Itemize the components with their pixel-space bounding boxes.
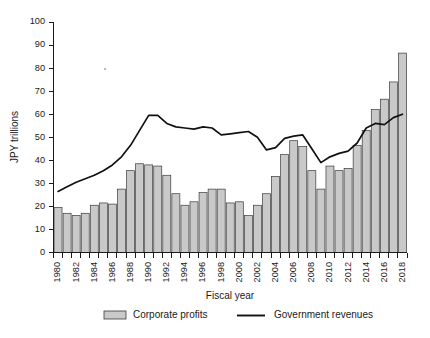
y-tick-label-40: 40	[35, 155, 45, 165]
bar-2004	[272, 176, 280, 252]
bar-1991	[154, 166, 162, 252]
x-tick-label-1982: 1982	[71, 262, 81, 282]
bar-2011	[335, 171, 343, 253]
bar-2000	[235, 202, 243, 253]
x-tick-label-2004: 2004	[270, 262, 280, 282]
bar-2007	[299, 146, 307, 252]
x-axis-title: Fiscal year	[206, 290, 255, 301]
legend-label-government-revenues: Government revenues	[274, 309, 373, 320]
y-axis-label: JPY trillions	[9, 111, 20, 163]
legend-swatch-corporate-profits	[104, 311, 126, 319]
x-tick-label-1990: 1990	[143, 262, 153, 282]
y-axis: 0102030405060708090100	[30, 16, 54, 257]
x-tick-label-1986: 1986	[107, 262, 117, 282]
bar-2017	[389, 82, 397, 253]
x-tick-label-1988: 1988	[125, 262, 135, 282]
y-tick-label-0: 0	[40, 247, 45, 257]
bar-1981	[63, 213, 71, 252]
x-tick-label-1992: 1992	[161, 262, 171, 282]
bar-2003	[263, 194, 271, 253]
y-tick-label-20: 20	[35, 201, 45, 211]
image-speck	[104, 68, 106, 70]
y-tick-label-70: 70	[35, 86, 45, 96]
bar-1997	[208, 189, 216, 252]
bar-2009	[317, 189, 325, 252]
bar-1993	[172, 194, 180, 253]
bar-2012	[344, 168, 352, 252]
y-tick-label-100: 100	[30, 16, 45, 26]
bar-1999	[226, 203, 234, 253]
bar-1986	[108, 204, 116, 252]
chart-container: 0102030405060708090100 19801982198419861…	[0, 0, 430, 338]
bar-2013	[353, 145, 361, 252]
x-tick-label-2002: 2002	[252, 262, 262, 282]
x-axis: 1980198219841986198819901992199419961998…	[52, 253, 407, 283]
x-axis-label: Fiscal year	[206, 290, 255, 301]
bar-2018	[398, 53, 406, 252]
x-tick-label-2006: 2006	[288, 262, 298, 282]
bar-1994	[181, 205, 189, 252]
y-tick-label-50: 50	[35, 132, 45, 142]
bar-1992	[163, 175, 171, 252]
x-tick-label-1984: 1984	[89, 262, 99, 282]
bar-1989	[136, 164, 144, 253]
bar-1984	[90, 205, 98, 252]
x-tick-label-1998: 1998	[216, 262, 226, 282]
x-tick-label-2016: 2016	[379, 262, 389, 282]
bar-1982	[72, 216, 80, 253]
y-tick-label-60: 60	[35, 109, 45, 119]
bar-1998	[217, 189, 225, 252]
x-tick-label-1994: 1994	[179, 262, 189, 282]
x-tick-label-2000: 2000	[234, 262, 244, 282]
x-tick-label-1980: 1980	[52, 262, 62, 282]
x-tick-label-1996: 1996	[197, 262, 207, 282]
bar-1987	[117, 189, 125, 252]
bar-2006	[290, 141, 298, 253]
bar-2015	[371, 110, 379, 253]
chart-legend: Corporate profits Government revenues	[104, 309, 373, 320]
bar-2014	[362, 130, 370, 252]
bar-1990	[145, 165, 153, 253]
legend-label-corporate-profits: Corporate profits	[133, 309, 207, 320]
bar-2002	[253, 205, 261, 252]
y-axis-title: JPY trillions	[9, 111, 20, 163]
x-tick-label-2010: 2010	[324, 262, 334, 282]
bar-1995	[190, 202, 198, 253]
y-tick-label-10: 10	[35, 224, 45, 234]
y-tick-label-30: 30	[35, 178, 45, 188]
bar-1996	[199, 193, 207, 253]
bar-2001	[244, 216, 252, 253]
chart-figure: 0102030405060708090100 19801982198419861…	[0, 0, 430, 338]
bar-2008	[308, 171, 316, 253]
x-tick-label-2008: 2008	[306, 262, 316, 282]
bar-1988	[127, 171, 135, 253]
bar-1985	[99, 203, 107, 253]
x-tick-label-2018: 2018	[397, 262, 407, 282]
bar-2005	[281, 155, 289, 253]
y-tick-label-80: 80	[35, 63, 45, 73]
bar-1980	[54, 208, 62, 253]
bar-1983	[81, 213, 89, 252]
bar-2010	[326, 166, 334, 252]
x-tick-label-2012: 2012	[343, 262, 353, 282]
x-tick-label-2014: 2014	[361, 262, 371, 282]
y-tick-label-90: 90	[35, 39, 45, 49]
